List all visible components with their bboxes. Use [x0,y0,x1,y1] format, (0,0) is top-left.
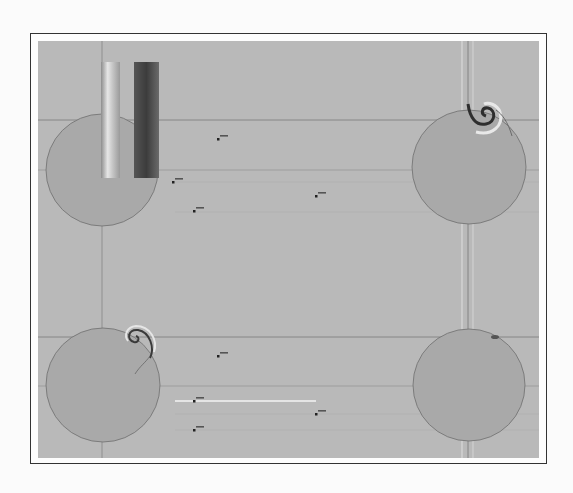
figure-canvas [0,0,573,493]
marker-label [220,135,228,137]
point-marker [315,413,318,416]
marker-label [175,178,183,180]
marker-label [318,192,326,194]
point-marker [217,138,220,141]
circle-bottom-right [413,329,525,441]
marker-label [196,426,204,428]
circle-bottom-left [46,328,160,442]
marker-label [220,352,228,354]
point-marker [217,355,220,358]
point-marker [193,429,196,432]
point-marker [193,210,196,213]
vortex-bottom-right-spot [491,335,499,339]
marker-label [196,397,204,399]
colorbar-strip-light [101,62,120,178]
point-marker [315,195,318,198]
marker-label [318,410,326,412]
point-marker [193,400,196,403]
point-marker [172,181,175,184]
marker-label [196,207,204,209]
colorbar-strip-dark [134,62,159,178]
point-markers [172,135,326,432]
